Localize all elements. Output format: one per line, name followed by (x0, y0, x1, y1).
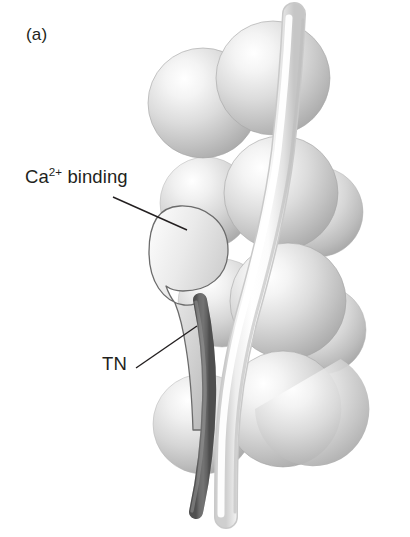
actin-monomer-sphere (216, 21, 330, 135)
troponin-label: TN (102, 355, 127, 374)
calcium-binding-label: Ca2+ binding (25, 168, 128, 187)
calcium-binding-label-suffix: binding (62, 166, 128, 187)
figure-container: (a) Ca2+ binding TN (0, 0, 410, 537)
calcium-binding-label-superscript: 2+ (49, 165, 62, 178)
calcium-binding-label-prefix: Ca (25, 166, 49, 187)
actin-filament-illustration (0, 0, 410, 537)
panel-label: (a) (26, 26, 47, 43)
